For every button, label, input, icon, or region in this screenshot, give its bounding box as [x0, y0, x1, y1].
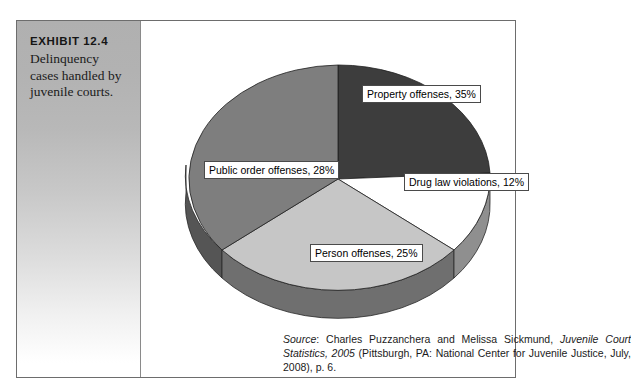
pie-label-person-offenses: Person offenses, 25% [310, 244, 423, 262]
exhibit-caption-text: Delinquency cases handled by juvenile co… [30, 51, 130, 101]
pie-slice-property-offenses [338, 65, 490, 179]
caption-inner: EXHIBIT 12.4 Delinquency cases handled b… [17, 21, 140, 101]
source-note: Source: Charles Puzzanchera and Melissa … [283, 332, 631, 374]
pie-label-property-offenses: Property offenses, 35% [362, 85, 481, 103]
exhibit-caption-panel: EXHIBIT 12.4 Delinquency cases handled b… [17, 21, 141, 377]
pie-label-public-order-offenses: Public order offenses, 28% [204, 161, 339, 179]
chart-area: Property offenses, 35% Drug law violatio… [142, 21, 515, 377]
pie-chart: Property offenses, 35% Drug law violatio… [182, 33, 494, 321]
pie-label-drug-law-violations: Drug law violations, 12% [404, 173, 529, 191]
source-authors: Charles Puzzanchera and Melissa Sickmund… [326, 333, 560, 345]
exhibit-figure-frame: EXHIBIT 12.4 Delinquency cases handled b… [16, 20, 516, 378]
source-prefix: Source [283, 333, 316, 345]
exhibit-number: EXHIBIT 12.4 [30, 34, 130, 49]
source-colon: : [316, 333, 326, 345]
